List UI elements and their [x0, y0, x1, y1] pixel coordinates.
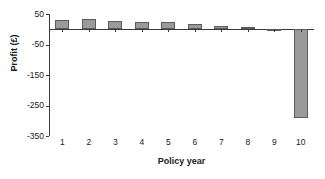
- y-axis-tick-mark: [46, 136, 49, 137]
- x-axis-tick-mark: [221, 29, 222, 32]
- x-axis-tick-label: 8: [235, 138, 261, 147]
- x-axis-tick-label: 6: [182, 138, 208, 147]
- bar: [135, 22, 149, 29]
- x-axis-tick-label: 5: [155, 138, 181, 147]
- y-axis-tick-label: 50: [16, 10, 44, 19]
- y-axis-tick-mark: [46, 75, 49, 76]
- y-axis-tick-mark: [46, 14, 49, 15]
- bar: [294, 29, 308, 117]
- x-axis-tick-mark: [62, 29, 63, 32]
- x-axis-tick-label: 4: [129, 138, 155, 147]
- x-axis-tick-mark: [168, 29, 169, 32]
- y-axis-line: [49, 14, 50, 136]
- x-axis-tick-mark: [142, 29, 143, 32]
- y-axis-tick-label: -50: [16, 40, 44, 49]
- y-axis-tick-label: -150: [16, 71, 44, 80]
- x-axis-tick-mark: [301, 29, 302, 32]
- x-axis-tick-mark: [89, 29, 90, 32]
- x-axis-tick-mark: [274, 29, 275, 32]
- y-axis-tick-label: -250: [16, 101, 44, 110]
- x-axis-tick-label: 3: [102, 138, 128, 147]
- bar: [108, 21, 122, 30]
- bar-chart: Profit (£) 50-50-150-250-350 12345678910…: [0, 0, 325, 179]
- plot-area: [49, 14, 314, 136]
- x-axis-tick-label: 1: [49, 138, 75, 147]
- x-axis-tick-label: 7: [208, 138, 234, 147]
- x-axis-tick-mark: [248, 29, 249, 32]
- bar: [55, 20, 69, 29]
- x-axis-tick-mark: [195, 29, 196, 32]
- x-axis-tick-label: 9: [261, 138, 287, 147]
- x-axis-tick-mark: [115, 29, 116, 32]
- x-axis-tick-label: 10: [288, 138, 314, 147]
- bar: [161, 22, 175, 29]
- bar: [82, 19, 96, 30]
- x-axis-title: Policy year: [49, 156, 314, 166]
- y-axis-tick-mark: [46, 106, 49, 107]
- y-axis-tick-label: -350: [16, 132, 44, 141]
- y-axis-tick-mark: [46, 45, 49, 46]
- x-axis-tick-labels: 12345678910: [49, 138, 314, 152]
- x-axis-tick-label: 2: [76, 138, 102, 147]
- y-axis-tick-labels: 50-50-150-250-350: [16, 0, 44, 179]
